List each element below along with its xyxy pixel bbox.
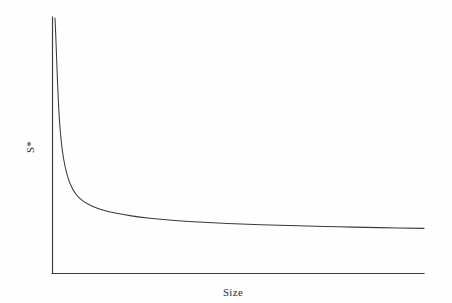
plot-area: [0, 0, 452, 303]
chart-figure: S* Size: [0, 0, 452, 303]
data-curve-s-star: [55, 18, 424, 228]
axes-group: [52, 17, 424, 274]
x-axis-label: Size: [223, 286, 243, 298]
y-axis-label: S*: [24, 141, 36, 153]
series-group: [55, 18, 424, 228]
